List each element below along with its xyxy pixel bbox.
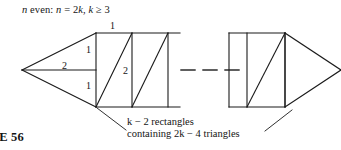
right-strip-diagonal [247,33,285,107]
right-fan-upper-outer-edge [285,33,341,70]
condition-inequality: ≥ 3 [93,4,110,15]
edge-label-top-one: 1 [110,20,115,31]
condition-text: n even: n = 2k, k ≥ 3 [22,4,110,16]
left-fan-group [22,33,96,107]
rectangle-strip-group [96,33,180,107]
strip-diagonal-2 [132,33,168,107]
caption-triangles-count: containing 2k − 4 triangles [127,128,240,140]
caption-rectangles-count: k − 2 rectangles [127,116,194,128]
condition-even-word: even: [27,4,56,15]
right-fan-lower-outer-edge [285,70,341,107]
edge-label-inner-two: 2 [123,65,128,76]
edge-label-upper-one: 1 [86,44,91,55]
left-fan-lower-outer-edge [22,70,96,107]
leader-line-left [97,108,126,130]
left-fan-upper-outer-edge [22,33,96,70]
figure-number-label: RE 56 [0,130,24,144]
figure-container: n even: n = 2k, k ≥ 3 1 1 1 2 2 k − 2 re… [0,0,341,150]
leader-line-right [265,110,292,131]
edge-label-middle-two: 2 [62,60,67,71]
right-fan-group [229,33,341,107]
edge-label-lower-one: 1 [86,80,91,91]
condition-equals: = 2 [61,4,78,15]
